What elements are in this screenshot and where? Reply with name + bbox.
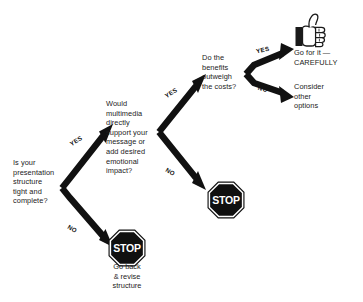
edge-q3-no	[246, 74, 294, 103]
stop-sign-text: STOP	[212, 194, 240, 206]
edge-q1-no	[62, 188, 113, 247]
edge-q2-no	[159, 132, 206, 190]
decision-q1-label: Is your presentation structure tight and…	[13, 158, 65, 206]
stop-sign-text: STOP	[113, 242, 141, 254]
stop-structure-caption: Go back & revise structure	[94, 262, 160, 291]
thumbs-up-icon	[292, 8, 332, 50]
decision-q2-label: Would multimedia directly support your m…	[106, 99, 158, 176]
edge-q2-yes	[159, 74, 206, 132]
flowchart-canvas: YES NO YES NO YES NO Is your presentatio…	[0, 0, 363, 302]
outcome-consider-other-label: Consider other options	[294, 82, 344, 111]
outcome-go-for-it-label: Go for it — CAREFULLY	[294, 48, 363, 67]
stop-sign-icon-cost: STOP	[206, 180, 246, 220]
decision-q3-label: Do the benefits outweigh the costs?	[202, 53, 248, 91]
edge-q3-yes	[246, 43, 294, 74]
